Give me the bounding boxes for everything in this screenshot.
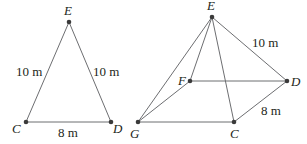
- triangle-point-d: D: [112, 121, 123, 136]
- triangle-point-c: C: [12, 121, 21, 136]
- triangle-base-length: 8 m: [58, 125, 78, 140]
- pyramid-point-g: G: [130, 126, 140, 141]
- pyramid-point-e: E: [206, 0, 215, 13]
- pyramid-base-length: 8 m: [261, 103, 281, 118]
- pyramid-point-c: C: [230, 126, 239, 141]
- triangle-right-length: 10 m: [93, 64, 119, 79]
- triangle-point-e: E: [63, 3, 72, 18]
- triangle-left-length: 10 m: [16, 64, 42, 79]
- geometry-figures: E C D 10 m 10 m 8 m E F D C G 10 m 8 m: [0, 0, 307, 144]
- pyramid-point-d: D: [290, 74, 301, 89]
- pyramid-edge-length: 10 m: [252, 35, 278, 50]
- pyramid-point-f: F: [177, 73, 187, 88]
- diagram-canvas: E C D 10 m 10 m 8 m E F D C G 10 m 8 m: [0, 0, 307, 144]
